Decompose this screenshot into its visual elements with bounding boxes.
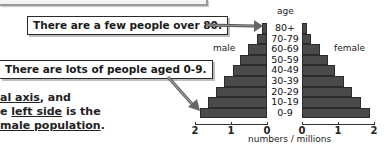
arrow-icon bbox=[0, 0, 384, 148]
